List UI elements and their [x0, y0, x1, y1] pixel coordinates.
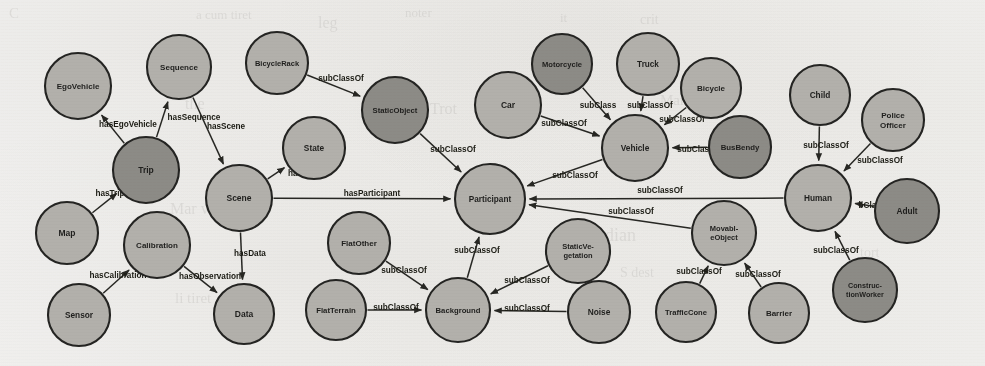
edge-label: subClassOf [608, 207, 654, 216]
node-label: Child [810, 90, 831, 100]
graph-edge[interactable]: subClassOf [529, 205, 691, 229]
edge-label: subClassOf [813, 246, 859, 255]
edge-label: subClassOf [552, 171, 598, 180]
node-label: BicycleRack [255, 59, 300, 68]
node-label: Bicycle [697, 84, 726, 93]
graph-node-staticvegetation[interactable]: StaticVe-getation [546, 219, 610, 283]
graph-node-background[interactable]: Background [426, 278, 490, 342]
node-label: Barrier [766, 309, 792, 318]
edge-label: subClassOf [541, 119, 587, 128]
graph-edge[interactable]: subClassOf [381, 261, 428, 289]
node-label: FlatTerrain [316, 306, 356, 315]
graph-edge[interactable]: subClassOf [307, 74, 364, 96]
edge-label: subClass [580, 101, 617, 110]
edge-label: hasObservation [179, 272, 241, 281]
graph-edge[interactable]: subClassOf [491, 266, 550, 294]
graph-node-sensor[interactable]: Sensor [48, 284, 110, 346]
graph-edge[interactable]: subClassOf [529, 186, 783, 199]
graph-edge[interactable]: hasTrip [92, 189, 124, 213]
ontology-diagram-canvas: Ca cum tiretlegnoteritcrittheTrotMaritMa… [0, 0, 985, 366]
node-label: Motorcycle [542, 60, 582, 69]
graph-edge[interactable]: subClassOf [541, 116, 600, 136]
edge-label: subClassOf [857, 156, 903, 165]
graph-node-data[interactable]: Data [214, 284, 274, 344]
graph-node-sequence[interactable]: Sequence [147, 35, 211, 99]
node-label: Movabl- [710, 224, 739, 233]
node-label: BusBendy [721, 143, 760, 152]
graph-node-map[interactable]: Map [36, 202, 98, 264]
node-label: TrafficCone [665, 308, 707, 317]
node-label: Human [804, 193, 832, 203]
graph-edge[interactable]: subClassOf [813, 231, 859, 260]
node-label: Construc- [848, 281, 883, 290]
graph-node-flatother[interactable]: FlatOther [328, 212, 390, 274]
graph-edge[interactable]: hasScene [193, 97, 246, 163]
graph-node-calibration[interactable]: Calibration [124, 212, 190, 278]
edge-label: subClassOf [735, 270, 781, 279]
graph-node-noise[interactable]: Noise [568, 281, 630, 343]
graph-edge[interactable]: subClassOf [494, 304, 566, 313]
node-label: Calibration [136, 241, 178, 250]
node-label: Truck [637, 60, 659, 69]
edge-label: subClassOf [430, 145, 476, 154]
graph-node-participant[interactable]: Participant [455, 164, 525, 234]
node-label: EgoVehicle [57, 82, 100, 91]
graph-edge[interactable]: subClassOf [527, 159, 602, 185]
graph-node-child[interactable]: Child [790, 65, 850, 125]
node-label: Sensor [65, 310, 94, 320]
graph-node-barrier[interactable]: Barrier [749, 283, 809, 343]
edge-label: subClassOf [676, 267, 722, 276]
graph-node-adult[interactable]: Adult [875, 179, 939, 243]
node-label: Noise [588, 307, 611, 317]
node-label: State [304, 143, 325, 153]
graph-node-bicyclerack[interactable]: BicycleRack [246, 32, 308, 94]
graph-node-vehicle[interactable]: Vehicle [602, 115, 668, 181]
graph-node-staticobject[interactable]: StaticObject [362, 77, 428, 143]
edge-label: hasScene [207, 122, 246, 131]
graph-node-trafficcone[interactable]: TrafficCone [656, 282, 716, 342]
graph-edge[interactable]: hasParticipant [273, 189, 450, 199]
edge-label: subClassOf [318, 74, 364, 83]
node-label: tionWorker [846, 290, 884, 299]
graph-node-busbendy[interactable]: BusBendy [709, 116, 771, 178]
edge-line [273, 198, 450, 199]
graph-edge[interactable]: subClass [580, 88, 617, 120]
edge-line [529, 198, 783, 199]
node-label: eObject [710, 233, 738, 242]
edge-label: subClassOf [454, 246, 500, 255]
node-label: Background [436, 306, 481, 315]
graph-node-state[interactable]: State [283, 117, 345, 179]
edge-label: subClassOf [627, 101, 673, 110]
graph-node-egovehicle[interactable]: EgoVehicle [45, 53, 111, 119]
edge-label: subClassOf [659, 115, 705, 124]
graph-edge[interactable]: subClassOf [420, 134, 476, 172]
graph-node-trip[interactable]: Trip [113, 137, 179, 203]
node-label: Police [881, 111, 905, 120]
graph-edge[interactable]: subClassOf [676, 266, 722, 284]
edge-label: subClassOf [803, 141, 849, 150]
graph-node-motorcycle[interactable]: Motorcycle [532, 34, 592, 94]
node-label: Participant [469, 195, 512, 204]
node-label: Officer [880, 121, 906, 130]
graph-node-car[interactable]: Car [475, 72, 541, 138]
node-label: StaticObject [373, 106, 418, 115]
graph-node-flatterrain[interactable]: FlatTerrain [306, 280, 366, 340]
node-label: Adult [896, 206, 917, 216]
graph-edge[interactable]: hasData [234, 232, 266, 279]
graph-edge[interactable]: subClassOf [454, 237, 500, 278]
graph-node-truck[interactable]: Truck [617, 33, 679, 95]
graph-node-bicycle[interactable]: Bicycle [681, 58, 741, 118]
graph-node-movableobject[interactable]: Movabl-eObject [692, 201, 756, 265]
graph-node-scene[interactable]: Scene [206, 165, 272, 231]
node-label: Data [235, 309, 254, 319]
graph-node-constructionworker[interactable]: Construc-tionWorker [833, 258, 897, 322]
graph-node-policeofficer[interactable]: PoliceOfficer [862, 89, 924, 151]
node-label: Sequence [160, 63, 198, 72]
graph-edge[interactable]: subClassOf [368, 303, 422, 312]
node-label: Car [501, 100, 516, 110]
graph-edge[interactable]: subClassOf [803, 126, 849, 160]
ontology-graph: hasEgoVehiclehasSequencehasScenehasTriph… [0, 0, 985, 366]
graph-node-human[interactable]: Human [785, 165, 851, 231]
node-label: Scene [226, 193, 251, 203]
graph-edge[interactable]: subClassOf [627, 96, 673, 111]
